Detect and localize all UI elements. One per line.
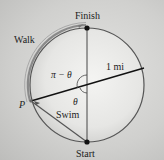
finish-label: Finish (75, 10, 100, 21)
angle-lower-label: θ (73, 97, 78, 107)
walk-label: Walk (14, 34, 35, 45)
diagram-canvas: Finish Start Walk Swim P 1 mi π − θ θ (0, 0, 164, 160)
radius-label: 1 mi (106, 61, 124, 72)
point-p-label: P (18, 99, 25, 110)
lake-diagram: Finish Start Walk Swim P 1 mi π − θ θ (0, 0, 164, 160)
start-point (84, 139, 89, 144)
angle-upper-label: π − θ (51, 70, 72, 80)
start-label: Start (76, 148, 95, 159)
swim-label: Swim (56, 109, 80, 120)
point-p (29, 99, 32, 102)
finish-point (84, 25, 89, 30)
